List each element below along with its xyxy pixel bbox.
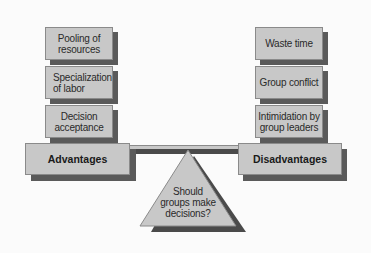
fulcrum-line: decisions? [150,208,226,219]
fulcrum-question: Should groups make decisions? [150,186,226,219]
fulcrum-line: groups make [150,197,226,208]
fulcrum-line: Should [150,186,226,197]
balance-diagram: Pooling of resources Specialization of l… [0,0,371,253]
